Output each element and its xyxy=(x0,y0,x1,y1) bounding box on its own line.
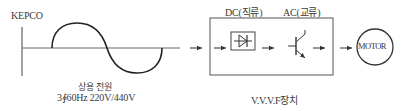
motor-label: MOTOR xyxy=(358,41,386,51)
vvvf-box xyxy=(210,18,333,75)
source-caption-line2: 3∮60Hz 220V/440V xyxy=(57,92,135,103)
vvvf-caption: V.V.V.F장치 xyxy=(251,92,298,107)
transistor-icon xyxy=(288,30,305,58)
kepco-label: KEPCO xyxy=(11,10,43,21)
ac-label: AC(교류) xyxy=(283,4,320,19)
sine-wave-graph xyxy=(22,23,180,76)
diode-icon xyxy=(231,32,255,50)
dc-label: DC(직류) xyxy=(225,4,262,19)
